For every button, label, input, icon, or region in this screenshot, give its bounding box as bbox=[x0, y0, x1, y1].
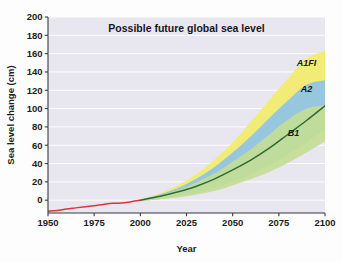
y-tick-label: 140 bbox=[27, 66, 43, 77]
x-tick-label: 2100 bbox=[314, 217, 335, 228]
y-tick-label: 200 bbox=[27, 11, 43, 22]
chart-title: Possible future global sea level bbox=[108, 22, 264, 34]
y-tick-label: 40 bbox=[32, 158, 43, 169]
series-label-b1: B1 bbox=[288, 128, 300, 138]
y-tick-label: 160 bbox=[27, 48, 43, 59]
x-axis-title: Year bbox=[176, 243, 196, 254]
y-tick-label: 180 bbox=[27, 30, 43, 41]
series-label-a2: A2 bbox=[300, 84, 313, 94]
x-tick-label: 2050 bbox=[222, 217, 243, 228]
sea-level-chart-figure: A1FIA2B1 020406080100120140160180200 195… bbox=[0, 0, 342, 262]
y-tick-label: 60 bbox=[32, 140, 43, 151]
chart-canvas: A1FIA2B1 020406080100120140160180200 195… bbox=[0, 0, 342, 262]
x-tick-label: 1950 bbox=[37, 217, 58, 228]
y-tick-label: 80 bbox=[32, 121, 43, 132]
x-tick-label: 1975 bbox=[84, 217, 106, 228]
y-tick-label: 0 bbox=[37, 194, 42, 205]
y-axis-title: Sea level change (cm) bbox=[5, 65, 16, 164]
x-tick-label: 2000 bbox=[130, 217, 151, 228]
y-tick-label: 100 bbox=[27, 103, 43, 114]
x-tick-label: 2075 bbox=[268, 217, 290, 228]
y-tick-label: 120 bbox=[27, 85, 43, 96]
series-label-a1fi: A1FI bbox=[296, 58, 317, 68]
x-tick-label: 2025 bbox=[176, 217, 198, 228]
y-tick-label: 20 bbox=[32, 176, 43, 187]
